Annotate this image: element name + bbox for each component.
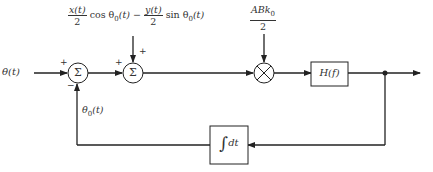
noise-term2-arg: (t) bbox=[193, 9, 204, 20]
noise-term2-function: sin θ bbox=[166, 9, 189, 20]
feedback-label: θ0(t) bbox=[82, 104, 103, 118]
noise-term1-arg: (t) bbox=[119, 9, 130, 20]
input-label-text: θ(t) bbox=[2, 66, 20, 77]
noise-term1-fraction: x(t) 2 bbox=[68, 4, 87, 27]
noise-term2-fraction: y(t) 2 bbox=[144, 4, 163, 27]
filter-label: H(f) bbox=[311, 67, 348, 78]
summer-2-top-plus-sign: + bbox=[139, 46, 147, 56]
noise-term2-numerator: y(t) bbox=[144, 4, 163, 16]
integrator-label: ∫dt bbox=[210, 133, 248, 153]
gain-label: ABk0 2 bbox=[250, 4, 276, 32]
summer-1-plus-sign: + bbox=[60, 57, 68, 67]
summer-2-left-plus-sign: + bbox=[115, 57, 123, 67]
noise-minus: − bbox=[133, 9, 141, 20]
noise-term1-numerator: x(t) bbox=[68, 4, 87, 16]
feedback-label-arg: (t) bbox=[92, 104, 103, 115]
noise-term2-denominator: 2 bbox=[150, 16, 156, 27]
summer-2-symbol: Σ bbox=[126, 66, 140, 79]
gain-denominator: 2 bbox=[260, 21, 266, 32]
gain-numerator: ABk bbox=[251, 4, 271, 15]
input-label: θ(t) bbox=[2, 66, 20, 77]
integral-symbol: ∫ bbox=[219, 133, 228, 153]
noise-expression: x(t) 2 cos θ0(t) − y(t) 2 sin θ0(t) bbox=[68, 4, 204, 27]
integrator-dt: dt bbox=[228, 137, 238, 148]
noise-term1-function: cos θ bbox=[90, 9, 115, 20]
gain-fraction: ABk0 2 bbox=[250, 4, 276, 32]
gain-sub: 0 bbox=[271, 10, 275, 18]
summer-1-symbol: Σ bbox=[71, 66, 85, 79]
noise-term1-denominator: 2 bbox=[74, 16, 80, 27]
summer-1-minus-sign: − bbox=[67, 80, 75, 90]
